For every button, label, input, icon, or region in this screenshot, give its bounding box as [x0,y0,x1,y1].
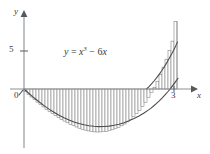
equation-label: y = x3 − 6x [64,47,107,57]
riemann-sum-figure: y x 5 0 3 y = x3 − 6x [0,0,210,154]
axis-label-x: x [197,91,201,100]
equation-equals: = [68,46,79,57]
plot-canvas [0,0,210,154]
y-tick-label-5: 5 [9,45,14,54]
axis-label-y: y [14,7,18,16]
equation-tail: − 6 [87,46,103,57]
equation-tail-var: x [102,46,106,57]
x-tick-label-3: 3 [171,91,176,100]
axis-ticks [20,51,174,92]
y-axis-arrowhead [21,10,28,17]
riemann-rectangles [24,22,177,132]
origin-label: 0 [14,91,19,100]
y-axis [21,10,28,148]
